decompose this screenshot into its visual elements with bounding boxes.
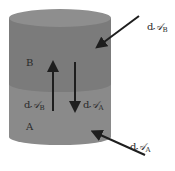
layer-a xyxy=(9,84,111,145)
flux-label-down-a: d𝒜A xyxy=(83,100,103,112)
layer-b-label: B xyxy=(26,58,33,68)
flux-label-external-a: d𝒜A xyxy=(130,142,150,154)
flux-label-external-b: d𝒜B xyxy=(147,22,168,34)
layer-a-label: A xyxy=(26,122,33,132)
cylinder-top xyxy=(9,9,111,27)
flux-label-up-b: d𝒜B xyxy=(24,100,45,112)
layer-b xyxy=(9,18,111,92)
